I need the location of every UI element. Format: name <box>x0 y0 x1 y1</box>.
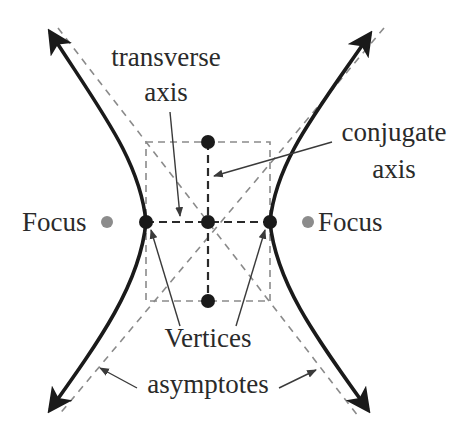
hyperbola-diagram: transverse axis conjugate axis Focus Foc… <box>0 0 471 435</box>
label-vertices: Vertices <box>165 323 252 353</box>
label-conjugate: conjugate <box>342 117 447 147</box>
covertex-top-dot <box>201 135 215 149</box>
asymptotes-pointer-left <box>100 368 137 388</box>
vertices-pointer-left <box>151 230 180 326</box>
focus-right-dot <box>302 216 314 228</box>
label-focus-left: Focus <box>22 207 87 237</box>
transverse-axis-pointer <box>170 112 180 216</box>
vertex-right-dot <box>263 215 277 229</box>
label-focus-right: Focus <box>318 207 383 237</box>
vertex-left-dot <box>139 215 153 229</box>
center-dot <box>201 215 215 229</box>
vertices-pointer-right <box>236 230 265 326</box>
focus-left-dot <box>101 216 113 228</box>
diagram-svg: transverse axis conjugate axis Focus Foc… <box>0 0 471 435</box>
asymptotes-pointer-right <box>279 370 316 388</box>
conjugate-axis-pointer <box>214 142 332 176</box>
label-transverse-axis: axis <box>144 77 188 107</box>
label-asymptotes: asymptotes <box>147 369 269 399</box>
covertex-bottom-dot <box>201 294 215 308</box>
label-conjugate-axis: axis <box>372 154 416 184</box>
label-transverse: transverse <box>111 42 220 72</box>
